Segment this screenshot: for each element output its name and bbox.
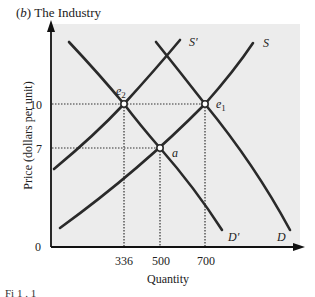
y-tick-0: 0 (35, 240, 41, 254)
label-D-prime: D′ (227, 230, 240, 244)
x-tick-500: 500 (152, 254, 170, 268)
label-S: S (263, 36, 269, 50)
industry-chart: 0 7 10 336 500 700 S S′ D D′ e2 e1 a (0, 0, 315, 297)
label-e1-sub: 1 (221, 103, 226, 113)
x-tick-336: 336 (115, 254, 133, 268)
plot-area (52, 24, 300, 246)
x-axis-label: Quantity (147, 272, 189, 287)
x-tick-700: 700 (197, 254, 215, 268)
label-D: D (276, 230, 286, 244)
y-tick-7: 7 (36, 142, 42, 156)
y-axis-label: Price (dollars per unit) (21, 56, 36, 216)
label-a: a (172, 146, 178, 160)
label-S-prime: S′ (189, 35, 198, 49)
point-a (157, 145, 163, 151)
figure-caption-partial: Fi 1 . 1 (5, 287, 36, 297)
label-e2-sub: 2 (121, 90, 126, 100)
point-e1 (202, 101, 208, 107)
point-e2 (121, 101, 127, 107)
